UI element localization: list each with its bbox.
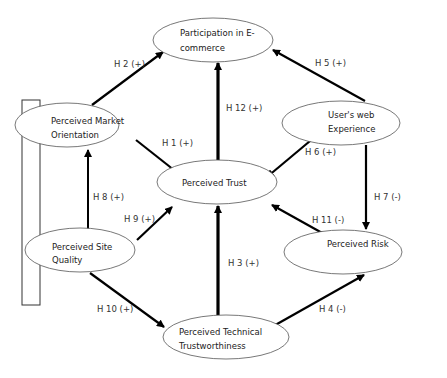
- node-technical-trust-line2: Trustworthiness: [178, 341, 246, 351]
- edge-label-h9: H 9 (+): [124, 214, 155, 224]
- edge-h10: [90, 273, 164, 327]
- node-web-experience-line1: User's web: [328, 110, 374, 120]
- node-site-quality-line1: Perceived Site: [52, 242, 112, 252]
- node-risk: Perceived Risk: [284, 230, 402, 274]
- edge-h4: [270, 275, 364, 328]
- node-participation-line1: Participation in E-: [180, 28, 255, 38]
- edge-label-h5: H 5 (+): [315, 58, 346, 68]
- edge-label-h8: H 8 (+): [93, 192, 124, 202]
- node-participation-line2: commerce: [180, 43, 225, 53]
- node-market-orientation-line2: Orientation: [51, 130, 99, 140]
- edge-label-h3: H 3 (+): [228, 258, 259, 268]
- node-trust-line1: Perceived Trust: [182, 178, 247, 188]
- edge-label-h6: H 6 (+): [305, 147, 336, 157]
- edge-label-h11: H 11 (-): [312, 215, 344, 225]
- node-site-quality: Perceived Site Quality: [25, 228, 135, 272]
- edge-label-h7: H 7 (-): [374, 192, 401, 202]
- node-risk-line1: Perceived Risk: [327, 239, 389, 249]
- edge-label-h4: H 4 (-): [319, 304, 346, 314]
- node-participation: Participation in E- commerce: [153, 18, 273, 62]
- node-trust: Perceived Trust: [157, 160, 277, 204]
- node-market-orientation-line1: Perceived Market: [51, 116, 125, 126]
- edge-label-h1: H 1 (+): [162, 138, 193, 148]
- node-technical-trust-line1: Perceived Technical: [179, 327, 262, 337]
- node-web-experience: User's web Experience: [282, 101, 400, 145]
- edge-label-h10: H 10 (+): [97, 304, 133, 314]
- node-technical-trust: Perceived Technical Trustworthiness: [163, 315, 289, 359]
- edge-label-h12: H 12 (+): [226, 103, 262, 113]
- node-web-experience-line2: Experience: [328, 124, 375, 134]
- node-market-orientation: Perceived Market Orientation: [15, 103, 125, 147]
- research-model-diagram: Participation in E- commerce Perceived M…: [0, 0, 447, 378]
- edge-label-h2: H 2 (+): [114, 59, 145, 69]
- node-site-quality-line2: Quality: [52, 255, 82, 265]
